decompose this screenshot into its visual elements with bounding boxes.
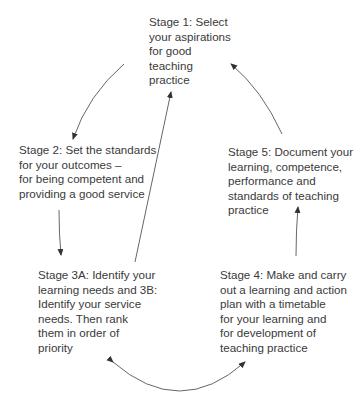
stage-3-line: Stage 3A: Identify your (38, 268, 157, 283)
stage-3-line: learning needs and 3B: (38, 283, 157, 298)
stage-4-line: teaching practice (220, 341, 347, 356)
arrow-stage3-stage4-arc (113, 362, 245, 391)
stage-5-line: practice (228, 203, 353, 218)
stage-3-line: Identify your service (38, 297, 157, 312)
stage-4-line: for development of (220, 326, 347, 341)
stage-2-line: for your outcomes – (19, 158, 156, 173)
stage-2-line: providing a good service (19, 187, 156, 202)
stage-2-line: Stage 2: Set the standards (19, 143, 156, 158)
stage-4-line: Stage 4: Make and carry (220, 268, 347, 283)
stage-5-line: performance and (228, 174, 353, 189)
stage-2-line: for being competent and (19, 172, 156, 187)
stage-1-node: Stage 1: Select your aspirations for goo… (149, 15, 231, 88)
arrow-stage5-to-stage1 (231, 64, 282, 134)
stage-4-line: plan with a timetable (220, 297, 347, 312)
stage-3-line: needs. Then rank (38, 312, 157, 327)
arrow-stage1-to-stage2 (73, 64, 124, 139)
stage-1-line: for good (149, 44, 231, 59)
stage-5-line: learning, competence, (228, 160, 353, 175)
stage-1-line: Stage 1: Select (149, 15, 231, 30)
stage-1-line: your aspirations (149, 30, 231, 45)
stage-3-line: them in order of (38, 326, 157, 341)
stage-1-line: teaching (149, 59, 231, 74)
stage-3-line: priority (38, 341, 157, 356)
arrow-stage2-to-stage3 (59, 210, 61, 255)
stage-4-line: for your learning and (220, 312, 347, 327)
stage-2-node: Stage 2: Set the standards for your outc… (19, 143, 156, 201)
stage-5-line: Stage 5: Document your (228, 145, 353, 160)
stage-4-line: out a learning and action (220, 283, 347, 298)
stage-4-node: Stage 4: Make and carry out a learning a… (220, 268, 347, 356)
stage-3-node: Stage 3A: Identify your learning needs a… (38, 268, 157, 356)
stage-5-line: standards of teaching (228, 189, 353, 204)
stage-5-node: Stage 5: Document your learning, compete… (228, 145, 353, 218)
stage-1-line: practice (149, 73, 231, 88)
